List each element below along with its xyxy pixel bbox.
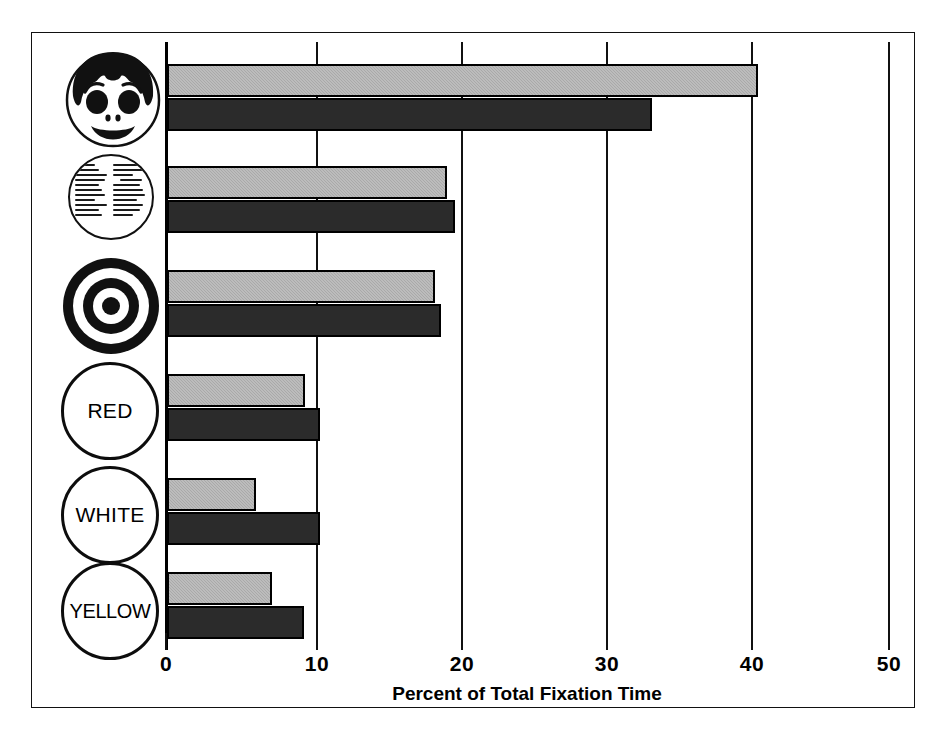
gridline-40 (751, 42, 753, 645)
bar-dark-0 (167, 98, 652, 131)
tick-50 (888, 633, 890, 650)
bullseye-icon (61, 256, 161, 360)
text-column-left (75, 162, 109, 232)
circle-label-yellow-text: YELLOW (70, 600, 151, 623)
bar-dark-1 (167, 200, 455, 233)
tick-label-10: 10 (305, 652, 329, 676)
bar-light-5 (167, 572, 272, 605)
text-page-icon: circle filled with two columns of small … (68, 154, 154, 240)
bar-light-2 (167, 270, 435, 303)
bar-light-0 (167, 64, 758, 97)
tick-30 (606, 633, 608, 650)
bar-dark-4 (167, 512, 320, 545)
chart-plot-area: 0 10 20 30 40 50 Percent of Total Fixati… (0, 0, 947, 755)
tick-label-30: 30 (595, 652, 619, 676)
gridline-10 (316, 42, 318, 645)
circle-label-white: WHITE (61, 466, 159, 564)
text-page-description: circle filled with two columns of small … (68, 240, 69, 241)
tick-10 (316, 633, 318, 650)
circle-label-white-text: WHITE (75, 503, 144, 527)
figure-root: 0 10 20 30 40 50 Percent of Total Fixati… (0, 0, 947, 755)
value-axis-line (165, 42, 168, 650)
tick-label-20: 20 (450, 652, 474, 676)
tick-40 (751, 633, 753, 650)
gridline-30 (606, 42, 608, 645)
tick-label-0: 0 (160, 652, 172, 676)
gridline-50 (888, 42, 890, 647)
gridline-20 (461, 42, 463, 645)
bar-light-1 (167, 166, 447, 199)
bar-light-3 (167, 374, 305, 407)
circle-label-red-text: RED (87, 399, 132, 423)
bar-light-4 (167, 478, 256, 511)
tick-20 (461, 633, 463, 650)
text-column-right (113, 162, 147, 232)
face-icon (61, 46, 165, 150)
circle-label-red: RED (61, 362, 159, 460)
bar-dark-3 (167, 408, 320, 441)
circle-label-yellow: YELLOW (61, 562, 159, 660)
bar-dark-5 (167, 606, 304, 639)
bar-dark-2 (167, 304, 441, 337)
x-axis-title: Percent of Total Fixation Time (165, 683, 889, 705)
tick-label-50: 50 (877, 652, 901, 676)
tick-label-40: 40 (740, 652, 764, 676)
